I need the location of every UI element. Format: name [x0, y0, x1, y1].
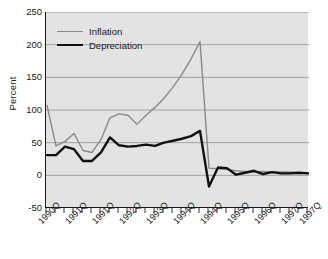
- y-tick-label: 0: [16, 170, 42, 180]
- y-tick-label: 150: [16, 72, 42, 82]
- legend-label-inflation: Inflation: [89, 26, 122, 37]
- y-tick-label: 250: [16, 7, 42, 17]
- y-tick-label: 50: [16, 138, 42, 148]
- y-tick-label: 200: [16, 40, 42, 50]
- y-axis-tick-labels: -50050100150200250: [14, 0, 42, 259]
- legend-item-depreciation: Depreciation: [57, 38, 187, 52]
- y-tick-label: -50: [16, 203, 42, 213]
- legend-item-inflation: Inflation: [57, 24, 187, 38]
- x-axis-ticks: [45, 208, 308, 215]
- y-tick-label: 100: [16, 105, 42, 115]
- series-line-depreciation: [47, 131, 308, 187]
- legend-label-depreciation: Depreciation: [89, 40, 142, 51]
- legend-swatch-depreciation: [57, 44, 83, 46]
- chart-figure: Percent -50050100150200250 1990Q1991Q199…: [0, 0, 328, 259]
- legend-swatch-inflation: [57, 31, 83, 32]
- chart-legend: Inflation Depreciation: [57, 24, 187, 52]
- series-lines: [47, 41, 308, 186]
- series-line-inflation: [47, 41, 308, 172]
